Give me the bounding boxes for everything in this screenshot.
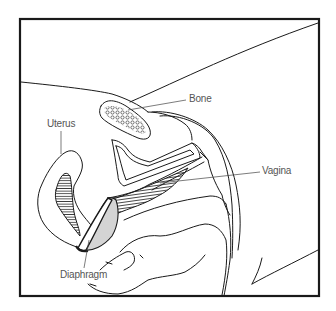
- bone-leader: [128, 100, 186, 110]
- leg-outline: [252, 250, 318, 284]
- anatomy-diagram: Bone Uterus Vagina Diaphragm: [0, 0, 336, 311]
- diaphragm-device: [76, 198, 118, 252]
- anatomy-drawing: [0, 0, 336, 311]
- diaphragm-label: Diaphragm: [60, 270, 107, 280]
- vaginal-canal: [108, 168, 188, 214]
- abdomen-outline: [130, 23, 318, 102]
- uterus-label: Uterus: [47, 119, 75, 129]
- bone-label: Bone: [189, 94, 212, 104]
- vagina-label: Vagina: [262, 166, 291, 176]
